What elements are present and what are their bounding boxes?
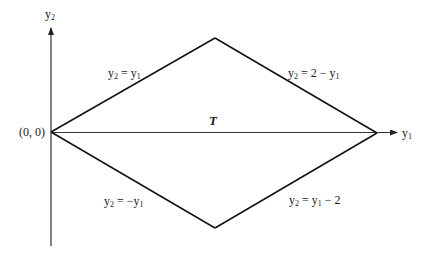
equation-upper-right: y2 = 2 − y1 [288, 67, 340, 79]
diagram-canvas [0, 0, 431, 257]
edge-lower-left [51, 132, 215, 228]
region-t-label: T [209, 114, 217, 127]
edge-upper-right [215, 38, 377, 133]
equation-lower-right: y2 = y1 − 2 [289, 194, 341, 206]
origin-label: (0, 0) [19, 126, 45, 138]
equation-lower-left: y2 = −y1 [104, 195, 144, 207]
y2-axis-label: y2 [45, 8, 55, 20]
edge-lower-right [215, 133, 377, 228]
equation-upper-left: y2 = y1 [108, 67, 141, 79]
y1-axis-label: y1 [402, 127, 412, 139]
edge-upper-left [51, 38, 215, 132]
